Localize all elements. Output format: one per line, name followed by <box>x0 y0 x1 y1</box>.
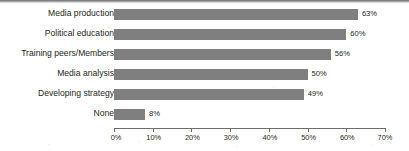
category-label: Media analysis <box>0 68 114 79</box>
bar-value-label: 49% <box>304 88 323 99</box>
bar-track: 63% <box>114 9 385 20</box>
category-label: Developing strategy <box>0 88 114 99</box>
x-axis-tick <box>308 129 309 132</box>
x-axis-tick <box>230 129 231 132</box>
x-axis-tick-label: 20% <box>185 133 200 142</box>
bar-row: Media analysis 50% <box>0 65 409 85</box>
x-axis-tick-label: 30% <box>224 133 239 142</box>
bar-fill[interactable] <box>114 89 304 100</box>
bar-track: 60% <box>114 29 385 40</box>
bar-row: Developing strategy 49% <box>0 85 409 105</box>
x-axis-tick-label: 60% <box>340 133 355 142</box>
x-axis-tick-label: 40% <box>262 133 277 142</box>
plot-area: Media production 63% Political education… <box>0 5 409 128</box>
bar-row: None 8% <box>0 105 409 125</box>
x-axis-tick-label: 10% <box>146 133 161 142</box>
category-label: Media production <box>0 8 114 19</box>
bar-fill[interactable] <box>114 29 346 40</box>
bar-value-label: 60% <box>346 28 365 39</box>
bar-fill[interactable] <box>114 109 145 120</box>
x-axis-line <box>114 128 386 129</box>
bar-track: 8% <box>114 109 385 120</box>
bar-fill[interactable] <box>114 49 331 60</box>
bar-value-label: 63% <box>358 8 377 19</box>
bar-track: 56% <box>114 49 385 60</box>
x-axis-tick-label: 50% <box>301 133 316 142</box>
bar-track: 49% <box>114 89 385 100</box>
bar-value-label: 8% <box>145 108 160 119</box>
bar-value-label: 50% <box>308 68 327 79</box>
x-axis-tick <box>114 129 115 132</box>
bar-row: Training peers/Members 56% <box>0 45 409 65</box>
x-axis-tick <box>385 129 386 132</box>
category-label: None <box>0 108 114 119</box>
category-label: Political education <box>0 28 114 39</box>
horizontal-bar-chart: Media production 63% Political education… <box>0 0 409 151</box>
x-axis-tick-label: 70% <box>378 133 393 142</box>
bar-fill[interactable] <box>114 9 358 20</box>
chart-top-border-hairline <box>0 2 409 3</box>
x-axis-tick <box>269 129 270 132</box>
bar-value-label: 56% <box>331 48 350 59</box>
x-axis-tick-label: 0% <box>111 133 122 142</box>
bar-track: 50% <box>114 69 385 80</box>
category-label: Training peers/Members <box>0 48 114 59</box>
bar-row: Media production 63% <box>0 5 409 25</box>
x-axis-tick <box>153 129 154 132</box>
bar-fill[interactable] <box>114 69 308 80</box>
x-axis-tick <box>191 129 192 132</box>
x-axis-tick <box>346 129 347 132</box>
bar-row: Political education 60% <box>0 25 409 45</box>
